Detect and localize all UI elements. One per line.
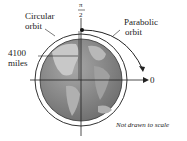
orbit-arrowhead — [139, 66, 145, 72]
pi-label: π — [79, 1, 83, 9]
parabolic-orbit-label: Parabolic orbit — [124, 17, 158, 37]
parabolic-pointer — [113, 30, 120, 36]
circular-orbit-label: Circular orbit — [25, 11, 55, 31]
distance-label: 4100 miles — [8, 48, 28, 68]
satellite-dot — [80, 28, 84, 32]
two-label: 2 — [79, 11, 83, 19]
zero-label: 0 — [150, 75, 155, 85]
axis-arrowhead — [143, 77, 149, 83]
note-label: Not drawn to scale — [116, 120, 169, 130]
